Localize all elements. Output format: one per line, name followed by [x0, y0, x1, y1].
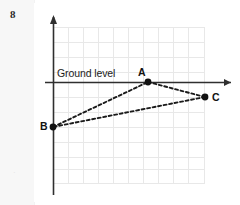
point-label-a: A [138, 66, 146, 78]
edge-A-C [148, 82, 205, 97]
grid-lines [53, 27, 205, 184]
point-label-b: B [40, 120, 48, 132]
page-canvas: 8 · [0, 0, 240, 205]
faint-margin-mark: · [13, 168, 16, 177]
point-A-dot [145, 79, 152, 86]
coordinate-plot: Ground level A B C [34, 3, 238, 202]
left-margin-strip [0, 0, 35, 205]
point-C-dot [202, 94, 209, 101]
y-axis-arrow-icon [50, 15, 57, 24]
edge-B-A [53, 82, 148, 127]
x-axis-arrow-icon [224, 79, 231, 86]
ground-level-label: Ground level [57, 67, 115, 79]
point-B-dot [50, 124, 57, 131]
question-number: 8 [10, 8, 16, 20]
x-axis [45, 79, 231, 86]
plot-svg [34, 3, 238, 202]
figure-card: Ground level A B C [34, 3, 238, 202]
point-label-c: C [212, 91, 220, 103]
